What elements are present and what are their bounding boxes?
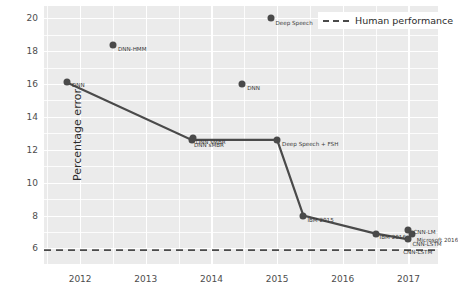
- y-tick-label: 20: [0, 13, 38, 23]
- point-label: Deep Speech: [276, 21, 313, 27]
- gridline-horizontal: [44, 265, 438, 266]
- human-performance-line-swatch: [323, 20, 349, 22]
- x-tick-label: 2013: [134, 274, 157, 284]
- data-point: [63, 79, 70, 86]
- data-point: [372, 230, 379, 237]
- y-tick-label: 12: [0, 145, 38, 155]
- x-tick-label: 2012: [69, 274, 92, 284]
- point-label: IBM 2015: [307, 218, 333, 224]
- gridline-horizontal: [44, 2, 438, 3]
- data-point: [109, 41, 116, 48]
- point-label: DNN-HMM: [118, 47, 147, 53]
- point-label: IBM 2016: [380, 235, 406, 241]
- data-point: [300, 212, 307, 219]
- legend: Human performance: [318, 12, 458, 29]
- y-axis-title: Percentage error: [71, 55, 84, 215]
- x-tick-label: 2016: [331, 274, 354, 284]
- series-lines: [44, 6, 438, 264]
- x-tick-label: 2015: [266, 274, 289, 284]
- point-label: DNN sMBR: [194, 143, 224, 149]
- y-tick-label: 8: [0, 211, 38, 221]
- gridline-vertical: [441, 6, 442, 264]
- data-point: [267, 15, 274, 22]
- y-tick-label: 14: [0, 112, 38, 122]
- data-point: [239, 81, 246, 88]
- y-tick-label: 18: [0, 46, 38, 56]
- legend-label-human-performance: Human performance: [355, 15, 453, 26]
- point-label: Deep Speech + FSH: [282, 142, 338, 148]
- y-tick-label: 6: [0, 243, 38, 253]
- data-point: [274, 136, 281, 143]
- point-label: Microsoft 2016: [417, 238, 458, 244]
- x-tick-label: 2014: [200, 274, 223, 284]
- point-label: CNN-LM: [413, 230, 435, 236]
- point-label: CNN-LSTM: [403, 250, 432, 256]
- y-tick-label: 16: [0, 79, 38, 89]
- progression-line: [67, 82, 408, 239]
- y-tick-label: 10: [0, 178, 38, 188]
- x-tick-label: 2017: [397, 274, 420, 284]
- plot-panel: DNNDNN-HMMDNN sMBRDNN sMBRDNNDeep Speech…: [44, 6, 438, 264]
- point-label: DNN: [247, 86, 260, 92]
